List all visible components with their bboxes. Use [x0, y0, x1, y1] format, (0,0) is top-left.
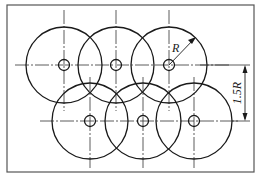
dimensions: 1.5R R [169, 37, 250, 121]
dimension-arrow-down-icon [243, 113, 248, 121]
dimension-arrow-up-icon [243, 65, 248, 73]
circle-group [26, 27, 232, 159]
row-spacing-label: 1.5R [230, 81, 244, 104]
radius-label: R [171, 41, 180, 55]
hole-pattern-diagram: 1.5R R [0, 0, 259, 184]
radius-arrow-icon [188, 37, 196, 44]
centerlines [15, 10, 240, 168]
